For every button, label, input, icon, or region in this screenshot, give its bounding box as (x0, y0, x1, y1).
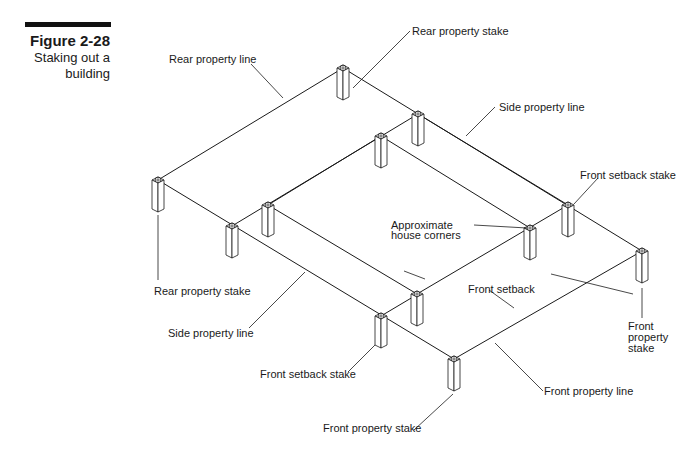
front-property-stake-right (636, 248, 648, 283)
label-front-property-line: Front property line (544, 385, 633, 397)
label-front-property-stake-right-3: stake (628, 342, 654, 354)
rear-property-line (158, 68, 343, 180)
house-rear-inner (268, 136, 381, 205)
stake-rear-right (412, 111, 424, 146)
label-front-setback: Front setback (468, 283, 535, 295)
label-side-property-line-top: Side property line (499, 101, 585, 113)
house-corner-stake-left (262, 202, 274, 237)
label-front-setback-stake-right: Front setback stake (580, 169, 676, 181)
house-side-line-right (381, 136, 530, 228)
house-corner-stake-front (411, 291, 423, 326)
setback-side-right (418, 114, 568, 205)
stake-left-setback (226, 223, 238, 258)
front-property-stake-bottom (448, 356, 460, 391)
front-setback-stake-bottom (375, 313, 387, 348)
house-corner-stake-right (524, 225, 536, 260)
label-rear-property-stake-top: Rear property stake (412, 25, 509, 37)
rear-property-stake-top (337, 65, 349, 100)
label-side-property-line-bottom: Side property line (168, 327, 254, 339)
staking-diagram: Rear property line Rear property stake S… (0, 0, 698, 458)
rear-property-stake-left (152, 177, 164, 212)
label-rear-property-line: Rear property line (169, 53, 256, 65)
label-rear-property-stake-left: Rear property stake (154, 285, 251, 297)
house-corner-stake-rear (375, 133, 387, 168)
front-property-line (454, 251, 642, 359)
label-front-setback-stake-bottom: Front setback stake (260, 368, 356, 380)
label-approximate-house-corners-2: house corners (391, 229, 461, 241)
label-front-property-stake-bottom: Front property stake (323, 422, 421, 434)
front-setback-stake-right (562, 202, 574, 237)
